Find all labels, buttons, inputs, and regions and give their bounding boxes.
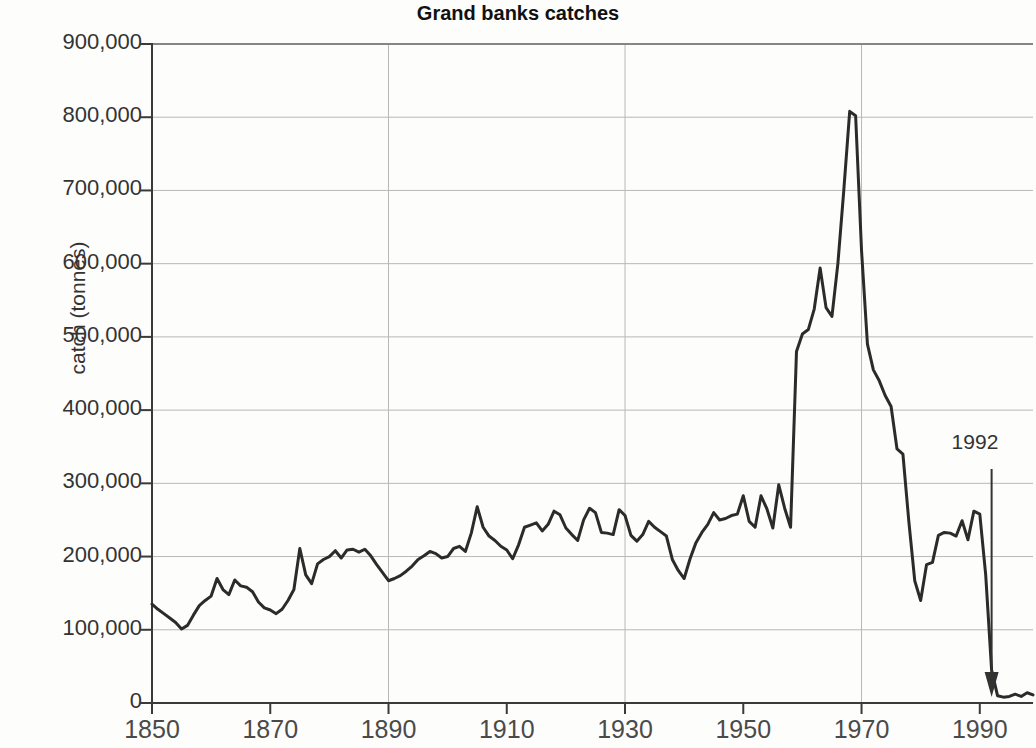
plot-svg [0, 0, 1036, 748]
chart-figure: Grand banks catches catch (tonnes) 0100,… [0, 0, 1036, 748]
data-line-grand-banks-catches [152, 111, 1033, 697]
